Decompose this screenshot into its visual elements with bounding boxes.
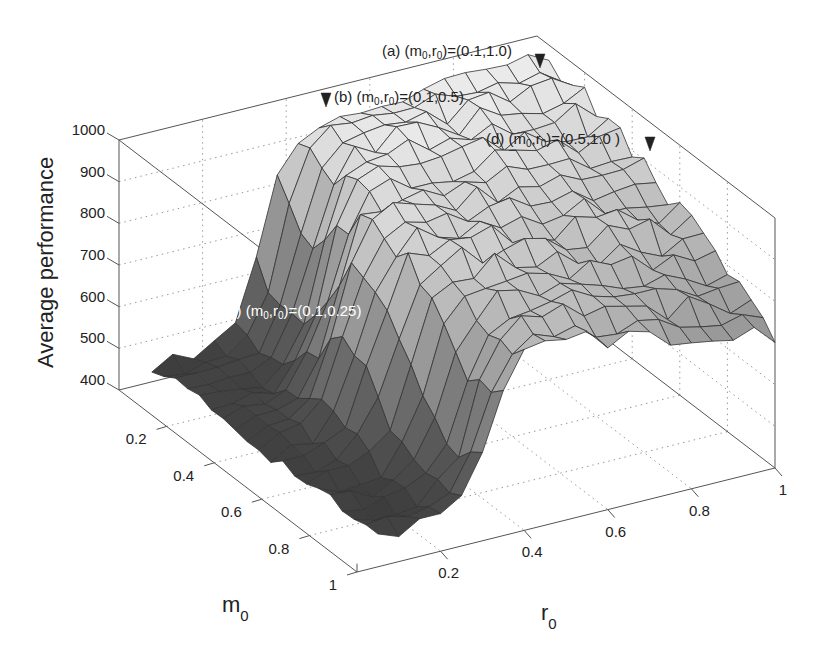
m0-tick-mark — [252, 499, 262, 502]
z-tick-label: 1000 — [72, 121, 105, 138]
z-tick-mark — [107, 175, 119, 182]
annotation-b: (b) (m0,r0)=(0.1,0.5) — [321, 88, 464, 107]
m0-tick-label: 0.8 — [269, 540, 290, 557]
r0-axis-title: r0 — [541, 600, 557, 632]
r0-tick-mark — [775, 468, 782, 476]
r0-axis-title-main: r — [541, 600, 548, 625]
surface-plot: 4005006007008009001000 0.20.40.60.81 0.2… — [0, 0, 837, 653]
z-tick-mark — [107, 133, 119, 140]
r0-tick-label: 0.2 — [438, 564, 459, 581]
r0-tick-label: 0.6 — [605, 523, 626, 540]
z-tick-label: 600 — [80, 288, 105, 305]
z-tick-label: 800 — [80, 204, 105, 221]
triangle-marker-icon — [645, 137, 655, 151]
z-tick-mark — [107, 341, 119, 348]
z-axis-ticks: 4005006007008009001000 — [72, 121, 119, 390]
z-tick-mark — [107, 258, 119, 265]
annotation-label: (c) (m0,r0)=(0.1,0.25) — [224, 302, 361, 321]
r0-tick-label: 0.8 — [689, 502, 710, 519]
m0-tick-mark — [347, 572, 357, 575]
r0-tick-label: 0.4 — [522, 543, 543, 560]
m0-tick-mark — [299, 536, 309, 539]
z-tick-mark — [107, 383, 119, 390]
annotation-label: (a) (m0,r0)=(0.1,1.0) — [382, 42, 512, 61]
z-tick-mark — [107, 216, 119, 223]
m0-tick-label: 0.4 — [173, 467, 194, 484]
annotation-label: (b) (m0,r0)=(0.1,0.5) — [334, 88, 464, 107]
m0-tick-mark — [157, 426, 167, 429]
z-tick-mark — [107, 300, 119, 307]
m0-tick-mark — [204, 463, 214, 466]
r0-axis-title-sub: 0 — [548, 615, 556, 632]
annotation-label: (d) (m0,r0)=(0.5,1.0 ) — [486, 130, 620, 149]
z-tick-label: 700 — [80, 246, 105, 263]
z-tick-label: 500 — [80, 329, 105, 346]
r0-tick-mark — [608, 510, 615, 518]
m0-axis-title-sub: 0 — [240, 607, 248, 624]
triangle-marker-icon — [211, 309, 221, 323]
m0-tick-label: 0.2 — [126, 430, 147, 447]
r0-tick-label: 1 — [779, 481, 787, 498]
triangle-marker-icon — [321, 93, 331, 107]
r0-tick-mark — [691, 489, 698, 497]
performance-surface — [152, 55, 775, 537]
m0-axis-title-main: m — [222, 592, 240, 617]
r0-tick-mark — [441, 551, 448, 559]
z-tick-label: 400 — [80, 371, 105, 388]
m0-tick-label: 1 — [329, 576, 337, 593]
m0-tick-label: 0.6 — [221, 503, 242, 520]
z-tick-label: 900 — [80, 163, 105, 180]
m0-axis-title: m0 — [222, 592, 249, 624]
r0-axis-ticks: 0.20.40.60.81 — [438, 468, 787, 581]
z-axis-title: Average performance — [33, 157, 58, 368]
r0-tick-mark — [524, 530, 531, 538]
